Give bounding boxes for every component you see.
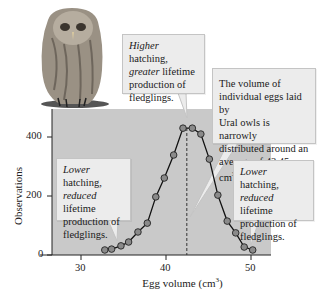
x-axis-label: Egg volume (cm3) — [0, 276, 329, 289]
data-point — [144, 220, 151, 227]
data-point — [135, 229, 142, 236]
callout-text: hatching, — [240, 179, 279, 190]
callout-mean-volume: The volume of individual eggs laid by Ur… — [212, 68, 316, 144]
callout-text: fledglings. — [63, 228, 124, 241]
callout-text: production of — [129, 78, 198, 91]
callout-text: lifetime — [240, 205, 273, 216]
data-point — [232, 230, 239, 237]
callout-text: distributed around an — [219, 142, 309, 155]
callout-higher-hatching: Higher hatching, greater lifetime produc… — [122, 34, 205, 94]
callout-text: lifetime — [160, 66, 195, 77]
xtick-label-40: 40 — [160, 262, 171, 273]
xtick-label-30: 30 — [75, 262, 86, 273]
callout-emphasis: Higher — [129, 40, 159, 51]
data-point — [189, 125, 196, 132]
data-point — [241, 244, 248, 251]
x-axis-label-text: Egg volume (cm — [142, 277, 215, 289]
data-point — [215, 192, 222, 199]
data-point — [161, 175, 168, 182]
data-point — [206, 156, 213, 163]
x-axis-label-end: ) — [219, 277, 223, 289]
data-point — [102, 247, 109, 254]
ytick-label-200: 200 — [26, 189, 42, 200]
ytick-label-0: 0 — [38, 248, 43, 259]
x-ticks — [81, 255, 251, 260]
callout-emphasis: reduced — [240, 192, 273, 203]
callout-text: fledglings. — [240, 230, 307, 243]
data-point — [108, 246, 115, 253]
callout-text: lifetime — [63, 203, 96, 214]
ytick-label-400: 400 — [26, 130, 42, 141]
data-point — [198, 131, 205, 138]
y-ticks — [47, 137, 52, 255]
callout-emphasis: reduced — [63, 190, 96, 201]
data-point — [153, 194, 160, 201]
data-point — [224, 218, 231, 225]
callout-lower-hatching-left: Lower hatching, reduced lifetime product… — [56, 158, 131, 221]
callout-text: individual eggs laid by — [219, 90, 309, 116]
callout-text: production of — [240, 217, 307, 230]
callout-text: hatching, — [129, 53, 168, 64]
callout-emphasis: Lower — [240, 166, 267, 177]
y-axis-label: Observations — [12, 164, 24, 228]
callout-text: Ural owls is narrowly — [219, 116, 309, 142]
xtick-label-50: 50 — [245, 262, 256, 273]
callout-emphasis: greater — [129, 66, 160, 77]
callout-text: fledglings. — [129, 91, 198, 104]
data-point — [249, 247, 256, 254]
callout-text: production of — [63, 215, 124, 228]
data-point — [170, 152, 177, 159]
callout-lower-hatching-right: Lower hatching, reduced lifetime product… — [233, 160, 314, 221]
owl-illustration — [41, 8, 109, 108]
data-point — [125, 239, 132, 246]
data-point — [180, 125, 187, 132]
callout-text: hatching, — [63, 177, 102, 188]
callout-emphasis: Lower — [63, 164, 90, 175]
data-point — [118, 243, 125, 250]
callout-text: The volume of — [219, 77, 309, 90]
